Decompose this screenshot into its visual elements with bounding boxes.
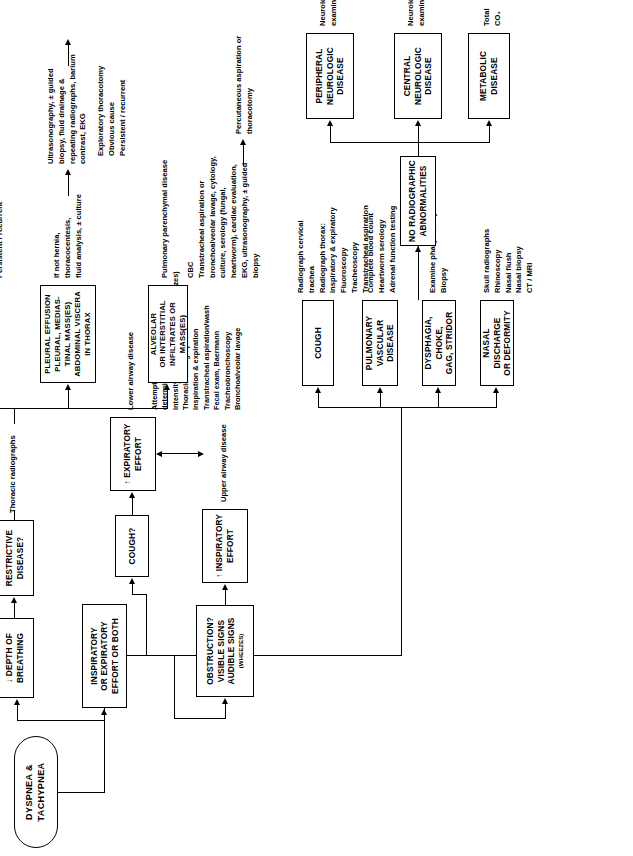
connector-radiographs-vertical bbox=[14, 408, 168, 409]
connector-radiographs-out bbox=[14, 408, 15, 424]
node-obstruction-sub: (WHEEZES) bbox=[237, 634, 245, 669]
connector-to-obstruction-in bbox=[225, 703, 226, 719]
node-peripheral-neuro-label: PERIPHERAL NEUROLOGIC DISEASE bbox=[314, 47, 346, 105]
node-alveolar: ALVEOLAR OR INTERSTITIAL INFILTRATES OR … bbox=[148, 285, 188, 383]
arrow-to-cough-question bbox=[129, 578, 135, 584]
connector-spine-to-nasal bbox=[401, 407, 497, 408]
connector-start-h bbox=[104, 714, 105, 793]
node-restrictive-disease: RESTRICTIVE DISEASE? bbox=[0, 520, 34, 596]
node-pleural-effusion: PLEURAL EFFUSION PLEURAL, MEDIAS- TINAL … bbox=[40, 285, 96, 383]
node-inspiratory-or-expiratory-label: INSPIRATORY OR EXPIRATORY EFFORT OR BOTH bbox=[89, 618, 121, 694]
connector-depth-to-restrictive bbox=[14, 602, 15, 618]
connector-spine-to-pvd bbox=[380, 407, 402, 408]
connector-start-trunk bbox=[58, 792, 105, 793]
arrow-to-central-neuro bbox=[415, 120, 421, 126]
note-lower-airway: Lower airway disease bbox=[126, 332, 137, 410]
connector-bottom-spine bbox=[401, 407, 402, 656]
note-peripheral-neuro-workup: Neurologic examination bbox=[318, 0, 340, 26]
arrow-to-inspiratory-expiratory bbox=[101, 709, 107, 715]
node-central-neuro-label: CENTRAL NEUROLOGIC DISEASE bbox=[402, 47, 434, 105]
note-nasal-workup: Skull radiographs Rhinoscopy Nasal flush… bbox=[482, 229, 536, 293]
note-effusion-workup: If not hernia, thoracocentesis, fluid an… bbox=[52, 194, 84, 278]
connector-to-peripheral-neuro bbox=[330, 125, 331, 143]
node-metabolic: METABOLIC DISEASE bbox=[468, 33, 510, 119]
connector-main-spine bbox=[127, 655, 402, 656]
node-cough-question-label: COUGH? bbox=[127, 528, 138, 565]
arrow-to-restrictive bbox=[11, 597, 17, 603]
node-inspiratory-or-expiratory: INSPIRATORY OR EXPIRATORY EFFORT OR BOTH bbox=[82, 604, 127, 708]
connector-noradio-out bbox=[418, 142, 419, 156]
note-pneumothorax-workup: Review history Fecal, Baermann Explorato… bbox=[0, 188, 6, 278]
node-expiratory-effort-label: ↑ EXPIRATORY EFFORT bbox=[122, 423, 143, 484]
connector-to-central-neuro bbox=[418, 125, 419, 143]
connector-up-branch-h bbox=[17, 704, 18, 721]
flowchart-canvas: DYSPNEA & TACHYPNEA INSPIRATORY OR EXPIR… bbox=[0, 0, 633, 856]
connector-effort-link bbox=[160, 453, 200, 454]
connector-to-obstruction-h bbox=[174, 655, 175, 719]
note-upper-airway: Upper airway disease bbox=[219, 424, 230, 502]
connector-nasal-in bbox=[496, 392, 497, 408]
connector-cough-branch-h bbox=[146, 594, 147, 656]
arrow-to-no-radiographic bbox=[415, 246, 421, 252]
connector-to-obstruction-down bbox=[174, 718, 226, 719]
arrow-to-obstruction bbox=[222, 698, 228, 704]
note-pulmonary-vascular-workup: Complete blood count Heartworm serology … bbox=[366, 206, 398, 293]
rotated-chart-wrapper: DYSPNEA & TACHYPNEA INSPIRATORY OR EXPIR… bbox=[0, 0, 633, 856]
connector-to-pneumothorax-v bbox=[0, 408, 16, 409]
connector-pvd-in bbox=[380, 392, 381, 408]
note-alveolar-caption: Pulmonary parenchymal disease bbox=[160, 160, 171, 278]
arrow-to-nasal-discharge bbox=[493, 387, 499, 393]
node-depth-of-breathing: ↓ DEPTH OF BREATHING bbox=[0, 618, 34, 698]
note-thoracic-radiographs: Thoracic radiographs bbox=[8, 435, 19, 513]
connector-to-metabolic bbox=[489, 125, 490, 143]
node-start: DYSPNEA & TACHYPNEA bbox=[14, 736, 58, 848]
node-start-label: DYSPNEA & TACHYPNEA bbox=[24, 763, 47, 822]
node-cough-label: COUGH bbox=[313, 327, 324, 359]
arrow-to-metabolic bbox=[486, 120, 492, 126]
node-alveolar-label: ALVEOLAR OR INTERSTITIAL INFILTRATES OR … bbox=[149, 288, 188, 380]
node-nasal-discharge: NASAL DISCHARGE OR DEFORMITY bbox=[480, 300, 514, 386]
arrow-to-peripheral-neuro bbox=[327, 120, 333, 126]
connector-to-no-radiographic bbox=[418, 246, 419, 300]
node-pleural-effusion-label: PLEURAL EFFUSION PLEURAL, MEDIAS- TINAL … bbox=[43, 291, 92, 377]
note-alveolar-workup: CBC Transtracheal aspiration or bronchoa… bbox=[186, 156, 261, 278]
node-inspiratory-effort-label: ↑ INSPIRATORY EFFORT bbox=[214, 514, 235, 578]
note-effusion-workup2: Ultrasonography, ± guided biopsy, fluid … bbox=[46, 54, 89, 164]
node-nasal-discharge-label: NASAL DISCHARGE OR DEFORMITY bbox=[481, 303, 513, 383]
arrow-effort-link-up bbox=[156, 451, 162, 457]
node-obstruction-label: OBSTRUCTION? VISIBLE SIGNS AUDIBLE SIGNS bbox=[205, 617, 237, 685]
arrow-to-pleural-effusion bbox=[65, 384, 71, 390]
arrow-alveolar-step2 bbox=[240, 139, 246, 145]
node-restrictive-disease-label: RESTRICTIVE DISEASE? bbox=[4, 530, 25, 587]
arrow-to-cough-node bbox=[315, 387, 321, 393]
node-obstruction: OBSTRUCTION? VISIBLE SIGNS AUDIBLE SIGNS… bbox=[196, 605, 254, 697]
arrow-effort-link-down bbox=[198, 451, 204, 457]
arrow-to-expiratory-effort bbox=[129, 492, 135, 498]
node-no-radiographic: NO RADIOGRAPHIC ABNORMALITIES bbox=[400, 156, 436, 246]
connector-cough-in bbox=[132, 583, 133, 595]
flowchart: DYSPNEA & TACHYPNEA INSPIRATORY OR EXPIR… bbox=[0, 0, 633, 856]
arrow-to-inspiratory-effort bbox=[222, 584, 228, 590]
node-depth-of-breathing-label: ↓ DEPTH OF BREATHING bbox=[4, 633, 25, 683]
connector-to-effusion-h bbox=[68, 389, 69, 409]
node-cough-question: COUGH? bbox=[115, 515, 149, 577]
connector-dysphagia-in bbox=[438, 392, 439, 408]
connector-cough-branch-up bbox=[132, 594, 147, 595]
node-pulmonary-vascular: PULMONARY VASCULAR DISEASE bbox=[362, 300, 398, 386]
note-alveolar-workup2: Percutaneous aspiration or thoracotomy bbox=[234, 36, 256, 134]
node-metabolic-label: METABOLIC DISEASE bbox=[478, 51, 499, 101]
connector-cough-node-in bbox=[318, 392, 319, 408]
connector-cough-to-expeffort bbox=[132, 497, 133, 515]
connector-effusion-step2 bbox=[68, 174, 69, 196]
connector-noradio-rail bbox=[330, 142, 490, 143]
node-peripheral-neuro: PERIPHERAL NEUROLOGIC DISEASE bbox=[306, 33, 354, 119]
node-pulmonary-vascular-label: PULMONARY VASCULAR DISEASE bbox=[364, 303, 396, 383]
arrow-to-pulmonary-vascular bbox=[377, 387, 383, 393]
note-cough-workup: Radiograph cervical trachea Radiograph t… bbox=[296, 205, 371, 293]
arrow-effusion-step2 bbox=[65, 169, 71, 175]
node-dysphagia-label: DYSPHAGIA, CHOKE, GAG, STRIDOR bbox=[423, 303, 455, 383]
note-metabolic-workup: Total CO₂ bbox=[482, 0, 504, 26]
node-no-radiographic-label: NO RADIOGRAPHIC ABNORMALITIES bbox=[407, 160, 428, 242]
arrow-to-depth-of-breathing bbox=[14, 699, 20, 705]
node-dysphagia: DYSPHAGIA, CHOKE, GAG, STRIDOR bbox=[422, 300, 456, 386]
